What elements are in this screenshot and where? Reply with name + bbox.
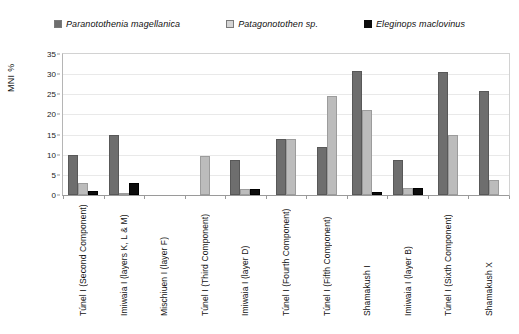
bar-group [347, 54, 388, 195]
legend-item-eleginops-maclovinus: Eleginops maclovinus [364, 19, 465, 29]
bars-layer [63, 54, 509, 195]
legend-label: Paranotothenia magellanica [66, 19, 180, 29]
x-tick-label: Shamakush I [362, 198, 372, 316]
legend-item-paranotothenia-magellanica: Paranotothenia magellanica [54, 19, 180, 29]
y-tick-label: 30 [47, 70, 56, 79]
bar [327, 96, 337, 195]
legend-item-patagonotothen-sp: Patagonotothen sp. [226, 19, 318, 29]
bar-group [63, 54, 104, 195]
chart-legend: Paranotothenia magellanica Patagonotothe… [0, 19, 519, 29]
y-tick-mark [57, 134, 60, 135]
y-tick-label: 5 [52, 170, 56, 179]
x-tick-label: Imiwaia I (layer B) [403, 198, 413, 316]
bar-chart: Paranotothenia magellanica Patagonotothe… [0, 0, 519, 334]
x-axis-labels: Túnel I (Second Component)Imiwaia I (lay… [63, 198, 509, 318]
x-tick-mark [509, 196, 510, 199]
x-tick-label: Túnel I (Fifth Component) [322, 198, 332, 316]
y-axis: 35302520151050 [36, 48, 60, 203]
bar [109, 135, 119, 195]
bar [372, 192, 382, 195]
y-tick-label: 15 [47, 130, 56, 139]
bar [489, 180, 499, 195]
bar-group [104, 54, 145, 195]
y-tick-mark [57, 195, 60, 196]
bar [286, 139, 296, 195]
y-tick-mark [57, 54, 60, 55]
x-tick-label: Túnel I (Sixth Component) [443, 198, 453, 316]
y-tick-mark [57, 74, 60, 75]
x-tick-label: Imiwaia I (layer D) [240, 198, 250, 316]
x-tick-label: Túnel I (Third Component) [200, 198, 210, 316]
legend-swatch-dark-gray-icon [54, 20, 62, 28]
bar [403, 188, 413, 195]
legend-label: Patagonotothen sp. [238, 19, 318, 29]
bar [438, 72, 448, 195]
y-tick-label: 0 [52, 191, 56, 200]
bar [119, 193, 129, 195]
x-tick-label: Imiwaia I (layers K, L & M) [119, 198, 129, 316]
legend-swatch-black-icon [364, 20, 372, 28]
bar [448, 135, 458, 195]
y-tick-label: 25 [47, 90, 56, 99]
legend-swatch-light-gray-icon [226, 20, 234, 28]
bar [129, 183, 139, 195]
x-tick-label: Mischiuen I (layer F) [159, 198, 169, 316]
bar [317, 147, 327, 195]
bar [250, 189, 260, 195]
y-tick-label: 10 [47, 150, 56, 159]
bar [352, 71, 362, 195]
bar [479, 91, 489, 195]
bar-group [225, 54, 266, 195]
bar [200, 156, 210, 195]
bar [276, 139, 286, 195]
bar-group [185, 54, 226, 195]
bar-group [266, 54, 307, 195]
y-tick-mark [57, 94, 60, 95]
y-tick-label: 20 [47, 110, 56, 119]
bar-group [144, 54, 185, 195]
bar [78, 183, 88, 195]
bar [393, 160, 403, 195]
y-tick-mark [57, 154, 60, 155]
bar [362, 110, 372, 195]
bar-group [428, 54, 469, 195]
bar-group [468, 54, 509, 195]
x-tick-label: Túnel I (Second Component) [78, 198, 88, 316]
bar [240, 189, 250, 195]
y-tick-label: 35 [47, 50, 56, 59]
bar [88, 191, 98, 195]
y-tick-mark [57, 174, 60, 175]
bar-group [387, 54, 428, 195]
y-tick-mark [57, 114, 60, 115]
bar [230, 160, 240, 195]
x-tick-label: Shamakush X [484, 198, 494, 316]
bar-group [306, 54, 347, 195]
x-tick-label: Túnel I (Fourth Component) [281, 198, 291, 316]
y-axis-title: MNI % [6, 64, 16, 93]
bar [413, 188, 423, 195]
bar [68, 155, 78, 195]
legend-label: Eleginops maclovinus [376, 19, 465, 29]
